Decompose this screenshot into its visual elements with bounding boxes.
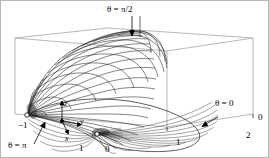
annotation-theta-half-pi: θ = π/2	[107, 5, 132, 14]
point-marker-minus-one	[25, 113, 29, 117]
tick-label-bottom-one: 1	[176, 138, 181, 147]
tick-label-front-one: 1	[79, 144, 84, 153]
annotation-theta-pi: θ = π	[8, 141, 26, 150]
axis-label-x: x	[65, 135, 69, 143]
axis-label-z: z	[64, 100, 67, 108]
figure-container: θ = π/2 θ = 0 θ = π −1 1 0 1 2 0 z y x	[0, 0, 269, 158]
tick-label-front-zero: 0	[105, 145, 110, 154]
theta-zero-arrowhead	[202, 122, 208, 127]
base-plane-outline	[28, 99, 200, 152]
point-marker-one	[95, 132, 99, 136]
theta-pi-arrowhead	[41, 122, 45, 128]
base-plane-curves	[28, 102, 218, 153]
theta-pi-leader	[34, 126, 43, 144]
tick-label-minus-one: −1	[18, 121, 28, 130]
tick-label-bottom-two: 2	[246, 131, 251, 140]
axis-label-y: y	[80, 118, 84, 126]
annotation-theta-zero: θ = 0	[215, 99, 233, 108]
axis-origin-dot	[61, 120, 64, 123]
surface-plot	[1, 1, 269, 158]
tick-label-right-zero: 0	[258, 113, 263, 122]
